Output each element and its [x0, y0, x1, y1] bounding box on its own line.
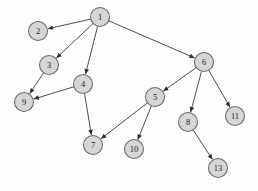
- node-circle[interactable]: [15, 93, 34, 112]
- arrow-head-icon: [101, 134, 107, 139]
- graph-edge: [34, 87, 74, 99]
- arrow-head-icon: [34, 95, 40, 99]
- graph-edge: [85, 93, 92, 135]
- node-circle[interactable]: [179, 113, 198, 132]
- arrow-head-icon: [163, 86, 169, 91]
- graph-edge: [193, 130, 212, 160]
- arrow-head-icon: [85, 69, 89, 75]
- arrow-head-icon: [88, 130, 93, 136]
- graph-edge: [85, 26, 97, 74]
- graph-edge: [209, 70, 230, 107]
- edges-layer: [30, 19, 230, 159]
- graph-node-4[interactable]: 4: [74, 75, 93, 94]
- graph-node-1[interactable]: 1: [91, 8, 110, 27]
- graph-edge: [191, 71, 202, 112]
- graph-edge: [138, 106, 152, 140]
- graph-node-7[interactable]: 7: [84, 136, 103, 155]
- graph-node-2[interactable]: 2: [29, 22, 48, 41]
- node-circle[interactable]: [226, 107, 245, 126]
- graph-edge: [163, 68, 196, 92]
- node-circle[interactable]: [146, 88, 165, 107]
- graph-node-13[interactable]: 13: [209, 159, 228, 178]
- nodes-layer: 123456789101113: [15, 8, 245, 178]
- arrow-head-icon: [48, 25, 54, 29]
- graph-edge: [56, 24, 93, 59]
- node-circle[interactable]: [125, 140, 144, 159]
- graph-edge: [48, 19, 91, 29]
- node-circle[interactable]: [84, 136, 103, 155]
- node-circle[interactable]: [209, 159, 228, 178]
- graph-node-3[interactable]: 3: [40, 56, 59, 75]
- node-circle[interactable]: [74, 75, 93, 94]
- arrow-head-icon: [208, 154, 213, 160]
- node-circle[interactable]: [195, 53, 214, 72]
- graph-edge: [109, 21, 195, 58]
- graph-figure: 123456789101113: [0, 0, 258, 191]
- arrow-head-icon: [30, 88, 35, 94]
- node-circle[interactable]: [40, 56, 59, 75]
- graph-node-11[interactable]: 11: [226, 107, 245, 126]
- graph-node-8[interactable]: 8: [179, 113, 198, 132]
- graph-canvas: 123456789101113: [0, 0, 258, 191]
- graph-node-9[interactable]: 9: [15, 93, 34, 112]
- graph-node-5[interactable]: 5: [146, 88, 165, 107]
- graph-node-6[interactable]: 6: [195, 53, 214, 72]
- graph-node-10[interactable]: 10: [125, 140, 144, 159]
- node-circle[interactable]: [29, 22, 48, 41]
- node-circle[interactable]: [91, 8, 110, 27]
